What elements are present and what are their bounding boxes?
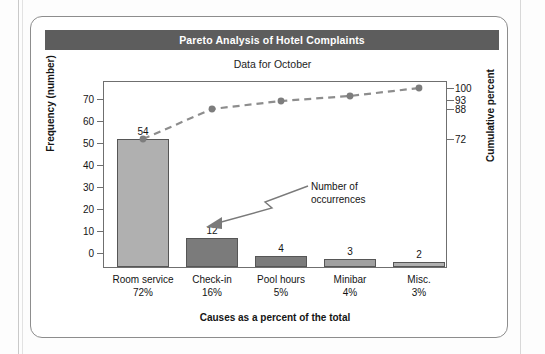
annotation-line-1: Number of: [311, 181, 358, 192]
y2-tick-label-100: 100: [455, 83, 472, 94]
annotation-number-of-occurrences: Number of occurrences: [311, 181, 365, 206]
x-category-misc: Misc. 3%: [381, 274, 457, 299]
x-category-percent-check-in: 16%: [174, 287, 250, 300]
y2-tick-label-88: 88: [455, 104, 466, 115]
y-tick-mark-10: [97, 231, 103, 232]
x-category-percent-minibar: 4%: [312, 287, 388, 300]
annotation-line-2: occurrences: [311, 194, 365, 205]
x-category-percent-misc: 3%: [381, 287, 457, 300]
chart-title-banner: Pareto Analysis of Hotel Complaints: [45, 30, 499, 50]
bar-room-service: [117, 139, 169, 267]
bar-value-room-service: 54: [117, 126, 169, 137]
x-category-room-service: Room service 72%: [105, 274, 181, 299]
y-axis-title: Frequency (number): [45, 24, 56, 184]
bar-check-in: [186, 238, 238, 267]
bar-value-minibar: 3: [324, 246, 376, 257]
y-tick-mark-60: [97, 121, 103, 122]
page-edge-line-secondary: [22, 0, 23, 354]
x-category-check-in: Check-in 16%: [174, 274, 250, 299]
x-category-percent-pool-hours: 5%: [243, 287, 319, 300]
y-tick-mark-50: [97, 143, 103, 144]
y2-tick-mark-93: [447, 100, 454, 101]
bar-value-pool-hours: 4: [255, 243, 307, 254]
bar-value-misc: 2: [393, 249, 445, 260]
y-tick-label-60: 60: [68, 116, 94, 127]
x-category-name-misc: Misc.: [407, 274, 430, 285]
bar-misc: [393, 262, 445, 267]
y-tick-label-70: 70: [68, 94, 94, 105]
x-category-minibar: Minibar 4%: [312, 274, 388, 299]
y-tick-label-20: 20: [68, 204, 94, 215]
x-category-name-pool-hours: Pool hours: [257, 274, 305, 285]
y-tick-label-10: 10: [68, 226, 94, 237]
x-category-name-minibar: Minibar: [334, 274, 367, 285]
bar-value-check-in: 12: [186, 225, 238, 236]
page-edge-line-right: [520, 0, 521, 354]
y-tick-mark-30: [97, 187, 103, 188]
y-tick-label-30: 30: [68, 182, 94, 193]
x-category-name-room-service: Room service: [112, 274, 173, 285]
y-tick-mark-0: [97, 253, 103, 254]
chart-subtitle: Data for October: [0, 58, 545, 70]
y2-tick-mark-72: [447, 139, 454, 140]
y-tick-label-50: 50: [68, 138, 94, 149]
x-category-name-check-in: Check-in: [192, 274, 231, 285]
y2-tick-mark-88: [447, 109, 454, 110]
y-tick-mark-40: [97, 165, 103, 166]
x-axis-title: Causes as a percent of the total: [103, 312, 447, 323]
y2-axis-title: Cumulative percent: [485, 36, 496, 196]
y2-tick-label-72: 72: [455, 134, 466, 145]
y2-tick-mark-100: [447, 88, 454, 89]
page-edge-line: [18, 0, 19, 354]
chart-title: Pareto Analysis of Hotel Complaints: [179, 34, 365, 46]
bar-pool-hours: [255, 256, 307, 267]
x-category-pool-hours: Pool hours 5%: [243, 274, 319, 299]
y-tick-mark-20: [97, 209, 103, 210]
y-tick-label-40: 40: [68, 160, 94, 171]
y-tick-mark-70: [97, 99, 103, 100]
x-category-percent-room-service: 72%: [105, 287, 181, 300]
y-tick-label-0: 0: [68, 248, 94, 259]
bar-minibar: [324, 259, 376, 267]
